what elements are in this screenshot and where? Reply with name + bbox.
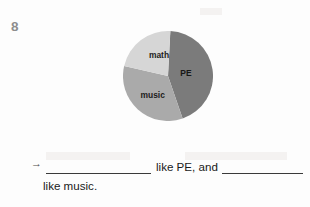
answer-middle-text: like PE, and [151,160,222,174]
pie-chart-svg: PE music math [123,31,213,121]
pie-slice-label-pe: PE [180,68,192,78]
pie-slices [123,31,213,121]
page-bleed-artifact [200,8,222,15]
worksheet-page: 8 PE music math → like PE, and like musi… [0,0,310,207]
answer-blank-2[interactable] [222,155,303,174]
answer-trailing-text: like music. [43,179,97,192]
pie-chart: PE music math [123,31,213,137]
pie-slice-label-music: music [141,90,166,100]
answer-line-first: → like PE, and [31,148,303,174]
pie-slice-label-math: math [149,50,169,60]
answer-area: → like PE, and like music. [0,148,310,207]
exercise-number: 8 [11,20,19,34]
arrow-right-icon: → [31,158,42,174]
answer-blank-1[interactable] [46,155,151,174]
